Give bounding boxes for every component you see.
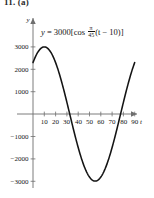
y-tick-labels: 3000 2000 1000 −1000 −2000 −3000 [11,43,29,185]
y-tick-label: 2000 [15,66,30,74]
chart-svg: 10 20 30 40 50 60 70 80 90 300 [0,10,154,198]
x-axis-label: t [140,118,143,126]
x-tick-label: 70 [109,118,117,126]
y-tick-label: −2000 [11,155,29,163]
y-axis-label: y [26,16,31,24]
plot-area: 10 20 30 40 50 60 70 80 90 300 [0,10,154,198]
x-tick-label: 50 [86,118,94,126]
y-tick-label: 3000 [15,43,30,51]
x-axis-arrowhead [131,111,137,116]
x-tick-label: 80 [120,118,128,126]
x-tick-label: 20 [52,118,60,126]
figure-container: 11. (a) y = 3000[cos π45(t − 10)] [0,0,154,198]
x-tick-label: 30 [63,118,71,126]
x-tick-label: 40 [75,118,83,126]
figure-number-label: 11. (a) [4,0,29,7]
y-tick-label: −1000 [11,133,29,141]
y-tick-label: 1000 [15,88,30,96]
x-tick-label: 60 [97,118,105,126]
y-tick-label: −3000 [11,178,29,186]
x-tick-label: 10 [41,118,49,126]
x-tick-labels: 10 20 30 40 50 60 70 80 90 [41,118,139,126]
x-tick-label: 90 [131,118,139,126]
y-axis-arrowhead [30,18,35,24]
